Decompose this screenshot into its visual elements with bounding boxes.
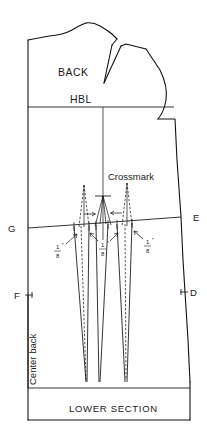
label-lower-section: LOWER SECTION [69,403,158,414]
point-label-d: D [190,287,197,298]
dart-upper-left [79,185,89,227]
label-back: BACK [58,66,89,78]
measurement-unit: ″ [152,237,154,243]
measurement-numerator: 1 [146,239,150,245]
lower-section-divider [28,382,190,420]
bodice-outline [28,23,190,420]
point-label-e: E [193,212,199,223]
measurement-dart-left: 1 8 ″ [54,242,64,259]
dart-upper-right [122,183,132,226]
measurement-dart-center: 1 8 ″ [99,240,109,257]
measurement-numerator: 1 [56,244,60,250]
waist-line-g-e [28,217,181,228]
measurement-denominator: 8 [101,251,105,257]
point-label-f: F [14,290,20,301]
measurement-unit: ″ [62,242,64,248]
measurement-dart-right: 1 8 ″ [144,237,154,254]
label-center-back: Center back [27,334,38,385]
measurement-unit: ″ [107,240,109,246]
notch-d [180,289,188,295]
point-label-g: G [8,223,15,234]
measurement-denominator: 8 [146,248,150,254]
dart-lower-right [117,223,132,382]
dart-lower-left [74,226,89,382]
pattern-drawing-canvas: BACK HBL Crossmark LOWER SECTION Center … [0,0,207,448]
label-hbl: HBL [70,93,92,105]
label-crossmark: Crossmark [108,171,154,182]
measurement-denominator: 8 [56,253,60,259]
notch-f [25,292,33,298]
measurement-numerator: 1 [101,242,105,248]
